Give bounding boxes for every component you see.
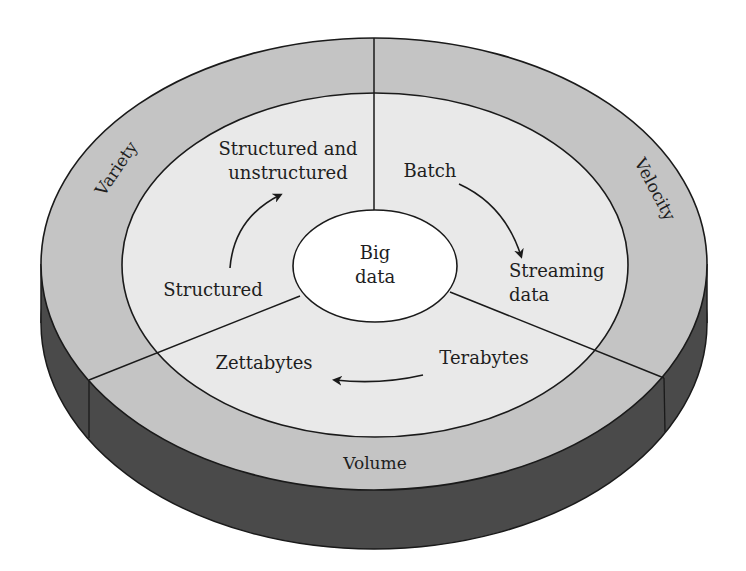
velocity-to-label-line1: Streaming — [509, 260, 605, 281]
variety-to-label-line2: unstructured — [228, 162, 348, 183]
big-data-3v-diagram: Big data Variety Structured Structured a… — [0, 0, 746, 571]
volume-to-label: Zettabytes — [215, 352, 312, 373]
velocity-to-label-line2: data — [509, 284, 549, 305]
volume-from-label: Terabytes — [439, 347, 528, 368]
variety-to-label-line1: Structured and — [218, 138, 357, 159]
ring-label-volume: Volume — [342, 453, 407, 473]
center-label-line1: Big — [360, 242, 391, 263]
variety-from-label: Structured — [163, 279, 262, 300]
center-label-line2: data — [355, 266, 395, 287]
velocity-from-label: Batch — [404, 160, 457, 181]
